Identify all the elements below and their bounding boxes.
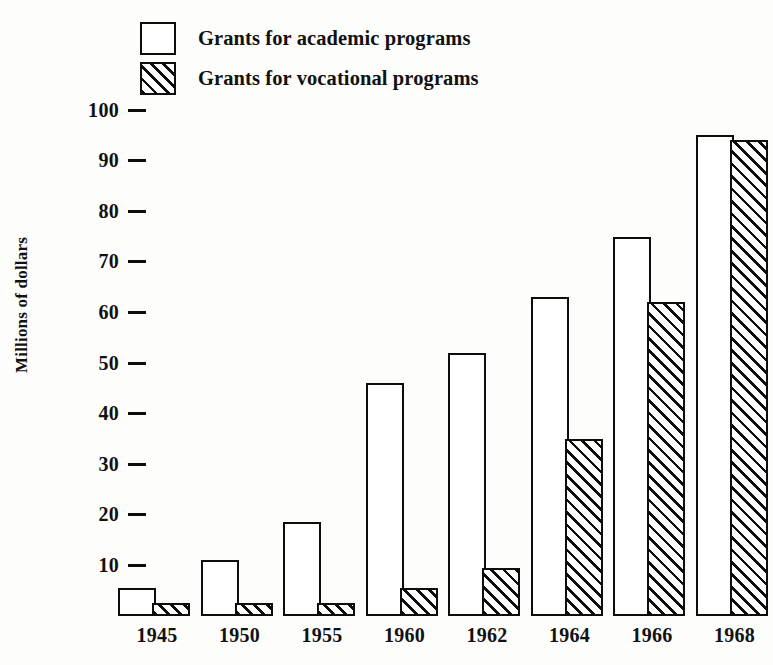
bar-1968-vocational [730,140,768,616]
bar-group-1945 [118,110,196,616]
bar-1966-academic [613,237,651,617]
x-tick-label-1950: 1950 [201,624,279,647]
bar-1945-vocational [152,603,190,616]
bar-1962-vocational [482,568,520,616]
legend-item-vocational: Grants for vocational programs [140,58,479,98]
x-tick-label-1964: 1964 [531,624,609,647]
x-tick-label-1962: 1962 [448,624,526,647]
bar-1968-academic [696,135,734,616]
bar-1955-vocational [317,603,355,616]
bar-1964-academic [531,297,569,616]
bar-group-1968 [696,110,773,616]
x-tick-label-1960: 1960 [366,624,444,647]
legend-label-vocational: Grants for vocational programs [198,67,479,90]
bar-1960-academic [366,383,404,616]
x-tick-label-1945: 1945 [118,624,196,647]
plot-area [110,110,770,616]
x-axis-labels: 19451950195519601962196419661968 [110,624,770,656]
x-tick-label-1955: 1955 [283,624,361,647]
bar-group-1950 [201,110,279,616]
x-tick-label-1966: 1966 [613,624,691,647]
bar-1945-academic [118,588,156,616]
bar-1950-academic [201,560,239,616]
x-tick-label-1968: 1968 [696,624,773,647]
bar-chart: Grants for academic programs Grants for … [0,0,773,665]
bar-1955-academic [283,522,321,616]
bar-group-1960 [366,110,444,616]
bar-1964-vocational [565,439,603,616]
bar-group-1955 [283,110,361,616]
bar-1950-vocational [235,603,273,616]
bar-group-1962 [448,110,526,616]
chart-legend: Grants for academic programs Grants for … [140,18,479,98]
bar-group-1966 [613,110,691,616]
legend-label-academic: Grants for academic programs [198,27,470,50]
bar-1960-vocational [400,588,438,616]
bar-1966-vocational [647,302,685,616]
bar-1962-academic [448,353,486,616]
legend-item-academic: Grants for academic programs [140,18,479,58]
bar-group-1964 [531,110,609,616]
